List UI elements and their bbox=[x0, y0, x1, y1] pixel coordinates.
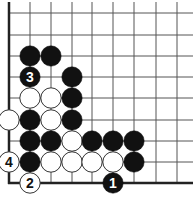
stone-white bbox=[0, 110, 19, 130]
stone-black bbox=[124, 131, 144, 151]
stone-black bbox=[62, 88, 82, 108]
white-stone-icon bbox=[41, 152, 61, 172]
stone-white bbox=[82, 152, 102, 172]
stone-white bbox=[41, 110, 61, 130]
black-stone-icon bbox=[124, 131, 144, 151]
white-stone-icon bbox=[82, 152, 102, 172]
stone-black bbox=[62, 110, 82, 130]
black-stone-icon bbox=[20, 110, 40, 130]
stone-white bbox=[20, 88, 40, 108]
black-stone-icon bbox=[62, 88, 82, 108]
stone-white bbox=[41, 152, 61, 172]
move-number-label: 3 bbox=[26, 69, 34, 85]
black-stone-icon bbox=[124, 152, 144, 172]
black-stone-icon bbox=[103, 131, 123, 151]
white-stone-icon bbox=[62, 131, 82, 151]
stone-white bbox=[62, 152, 82, 172]
black-stone-icon bbox=[62, 67, 82, 87]
black-stone-icon bbox=[62, 110, 82, 130]
stone-black bbox=[124, 152, 144, 172]
white-stone-icon bbox=[41, 110, 61, 130]
stone-white bbox=[41, 88, 61, 108]
stone-black bbox=[62, 67, 82, 87]
stone-black bbox=[20, 152, 40, 172]
black-stone-icon bbox=[20, 46, 40, 66]
stone-white-move-4: 4 bbox=[0, 152, 19, 172]
stone-black bbox=[20, 46, 40, 66]
stone-white-move-2: 2 bbox=[20, 173, 40, 193]
stone-black bbox=[41, 46, 61, 66]
move-number-label: 2 bbox=[26, 175, 34, 191]
stone-black bbox=[20, 131, 40, 151]
move-number-label: 4 bbox=[5, 154, 13, 170]
stone-black-move-1: 1 bbox=[103, 173, 123, 193]
white-stone-icon bbox=[62, 152, 82, 172]
stone-black bbox=[41, 131, 61, 151]
stone-black bbox=[103, 131, 123, 151]
black-stone-icon bbox=[20, 131, 40, 151]
go-board: 3421 bbox=[0, 0, 195, 198]
white-stone-icon bbox=[41, 88, 61, 108]
stone-black bbox=[82, 131, 102, 151]
stone-white bbox=[103, 152, 123, 172]
stone-black-move-3: 3 bbox=[20, 67, 40, 87]
white-stone-icon bbox=[20, 88, 40, 108]
move-number-label: 1 bbox=[109, 175, 117, 191]
white-stone-icon bbox=[103, 152, 123, 172]
black-stone-icon bbox=[20, 152, 40, 172]
black-stone-icon bbox=[41, 46, 61, 66]
white-stone-icon bbox=[0, 110, 19, 130]
black-stone-icon bbox=[41, 131, 61, 151]
stone-white bbox=[62, 131, 82, 151]
black-stone-icon bbox=[82, 131, 102, 151]
stone-black bbox=[20, 110, 40, 130]
